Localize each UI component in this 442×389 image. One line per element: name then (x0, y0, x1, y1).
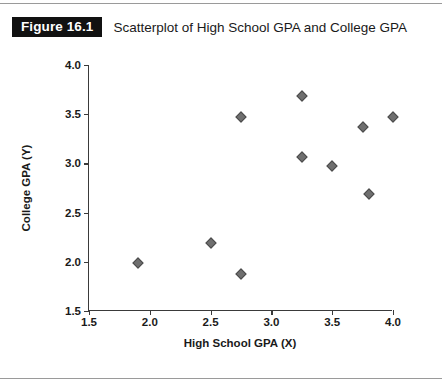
x-tick (271, 310, 272, 315)
bottom-divider (0, 378, 442, 379)
x-tick (211, 310, 212, 315)
y-tick (84, 163, 89, 164)
figure-title: Scatterplot of High School GPA and Colle… (113, 20, 407, 35)
data-point (296, 151, 307, 162)
x-tick-label: 4.0 (385, 316, 401, 328)
x-axis-title: High School GPA (X) (184, 337, 296, 349)
data-point (387, 111, 398, 122)
x-tick-label: 1.5 (81, 316, 97, 328)
top-divider (0, 3, 442, 4)
y-tick-label: 2.5 (65, 207, 81, 219)
data-point (296, 91, 307, 102)
y-tick-label: 1.5 (65, 305, 81, 317)
data-point (235, 111, 246, 122)
x-tick (332, 310, 333, 315)
data-point (327, 161, 338, 172)
y-tick (84, 262, 89, 263)
y-tick-label: 3.0 (65, 157, 81, 169)
data-point (235, 268, 246, 279)
data-point (205, 237, 216, 248)
scatterplot-chart: College GPA (Y) High School GPA (X) 1.52… (0, 44, 442, 364)
x-tick-label: 3.0 (263, 316, 279, 328)
y-tick (84, 114, 89, 115)
y-tick-label: 4.0 (65, 59, 81, 71)
y-tick (84, 213, 89, 214)
y-tick-label: 3.5 (65, 108, 81, 120)
data-point (363, 188, 374, 199)
y-tick (84, 65, 89, 66)
data-point (132, 257, 143, 268)
data-point (357, 121, 368, 132)
x-tick-label: 3.5 (324, 316, 340, 328)
y-axis-title: College GPA (Y) (20, 145, 32, 232)
x-tick-label: 2.0 (142, 316, 158, 328)
y-tick-label: 2.0 (65, 256, 81, 268)
x-tick (89, 310, 90, 315)
plot-frame: 1.52.02.53.03.54.0 1.52.02.53.03.54.0 (88, 65, 392, 311)
x-tick (150, 310, 151, 315)
x-tick-label: 2.5 (203, 316, 219, 328)
figure-number-badge: Figure 16.1 (12, 17, 102, 38)
figure-header: Figure 16.1 Scatterplot of High School G… (12, 16, 407, 38)
x-tick (393, 310, 394, 315)
